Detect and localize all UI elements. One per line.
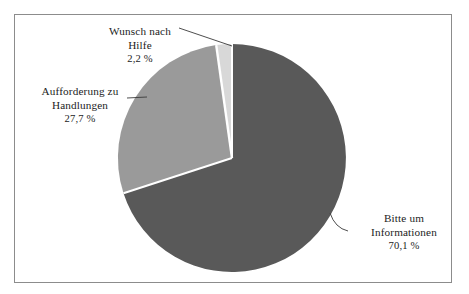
pie-label-bitte-line1: Bitte um [348,211,460,225]
leader-line-bitte-um-informationen [330,213,348,231]
pie-label-bitte-line2: Informationen [348,225,460,239]
pie-label-bitte-um-informationen: Bitte um Informationen 70,1 % [348,211,460,254]
pie-label-bitte-value: 70,1 % [348,239,460,253]
pie-label-wunsch-line1: Wunsch nach [92,24,188,38]
pie-label-aufforderung-line1: Aufforderung zu [25,84,135,98]
pie-label-aufforderung-line2: Handlungen [25,98,135,112]
pie-label-aufforderung-value: 27,7 % [25,112,135,126]
pie-label-aufforderung-zu-handlungen: Aufforderung zu Handlungen 27,7 % [25,84,135,127]
pie-label-wunsch-value: 2,2 % [92,52,188,66]
pie-chart-figure: Wunsch nach Hilfe 2,2 % Aufforderung zu … [0,0,469,294]
pie-label-wunsch-nach-hilfe: Wunsch nach Hilfe 2,2 % [92,24,188,67]
pie-label-wunsch-line2: Hilfe [92,38,188,52]
